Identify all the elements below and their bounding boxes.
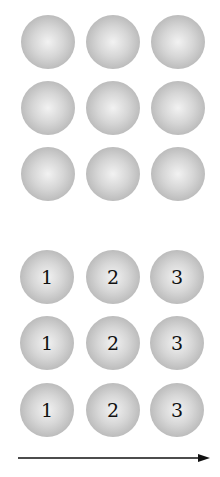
sphere <box>21 81 75 135</box>
sphere <box>21 15 75 69</box>
numbered-sphere: 2 <box>86 316 140 370</box>
sphere <box>86 81 140 135</box>
numbered-sphere: 3 <box>150 383 204 437</box>
right-arrow-icon <box>18 452 212 464</box>
sphere <box>151 147 205 201</box>
numbered-sphere: 2 <box>86 250 140 304</box>
numbered-sphere: 2 <box>86 383 140 437</box>
sphere <box>151 81 205 135</box>
sphere <box>21 147 75 201</box>
numbered-sphere: 3 <box>150 250 204 304</box>
numbered-sphere: 3 <box>150 316 204 370</box>
sphere <box>86 147 140 201</box>
numbered-sphere: 1 <box>20 250 74 304</box>
sphere <box>151 15 205 69</box>
numbered-sphere: 1 <box>20 383 74 437</box>
numbered-sphere: 1 <box>20 316 74 370</box>
sphere <box>86 15 140 69</box>
